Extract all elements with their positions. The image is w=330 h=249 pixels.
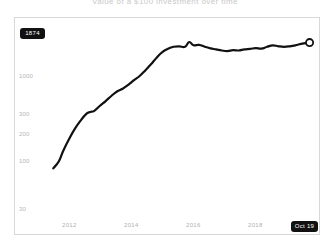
chart-svg <box>15 18 321 236</box>
y-axis-tick-30: 30 <box>19 206 26 213</box>
page-title: Value of a $100 investment over time <box>0 0 330 6</box>
y-axis-tick-1000: 1000 <box>19 73 33 80</box>
current-value-badge: 1874 <box>20 28 45 39</box>
y-axis-tick-100: 100 <box>19 158 30 165</box>
x-axis-tick-2016: 2016 <box>186 222 201 229</box>
y-axis-tick-200: 200 <box>19 131 30 138</box>
series-line <box>53 42 309 168</box>
x-axis-tick-2018: 2018 <box>248 222 263 229</box>
current-date-badge: Oct 19 <box>291 221 318 232</box>
y-axis-tick-300: 300 <box>19 111 30 118</box>
line-chart-plot <box>15 18 321 236</box>
x-axis-tick-2012: 2012 <box>62 222 77 229</box>
chart-frame: 1000 300 200 100 30 <box>14 17 320 235</box>
end-point-marker <box>306 39 313 46</box>
x-axis-tick-2014: 2014 <box>124 222 139 229</box>
